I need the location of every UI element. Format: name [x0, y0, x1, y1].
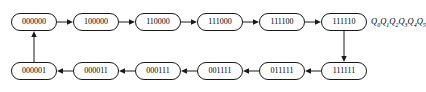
edge-110000-to-111000: [181, 19, 197, 24]
state-node-label: 100000: [84, 17, 108, 26]
edge-000001-to-000000: [31, 31, 36, 62]
state-node-label: 000001: [22, 66, 46, 75]
state-node-label: 011111: [271, 66, 294, 75]
state-node-001111[interactable]: 001111: [198, 63, 243, 80]
bit-order-q5: Q5: [417, 16, 426, 26]
state-node-label: 111110: [333, 17, 356, 26]
edge-000111-to-000011: [119, 68, 135, 73]
state-node-111111[interactable]: 111111: [322, 63, 367, 80]
state-node-110000[interactable]: 110000: [136, 14, 181, 31]
state-node-000111[interactable]: 000111: [136, 63, 181, 80]
state-node-111100[interactable]: 111100: [260, 14, 305, 31]
state-node-label: 000111: [146, 66, 169, 75]
state-node-label: 000000: [22, 17, 46, 26]
state-node-label: 001111: [208, 66, 231, 75]
bit-order-q0: Q0: [371, 16, 380, 26]
edge-100000-to-110000: [119, 19, 135, 24]
state-node-000000[interactable]: 000000: [12, 14, 57, 31]
state-node-100000[interactable]: 100000: [74, 14, 119, 31]
state-node-label: 000011: [84, 66, 108, 75]
state-node-111000[interactable]: 111000: [198, 14, 243, 31]
bit-order-label: Q0Q1Q2Q3Q4Q5: [371, 17, 426, 26]
state-node-label: 111100: [270, 17, 293, 26]
bit-order-q4: Q4: [408, 16, 417, 26]
state-node-011111[interactable]: 011111: [260, 63, 305, 80]
state-node-label: 111000: [208, 17, 231, 26]
edge-111111-to-011111: [305, 68, 321, 73]
bit-order-q3: Q3: [398, 16, 407, 26]
state-node-000011[interactable]: 000011: [74, 63, 119, 80]
state-node-label: 110000: [146, 17, 170, 26]
bit-order-q1: Q1: [380, 16, 389, 26]
state-node-111110[interactable]: 111110: [322, 14, 367, 31]
edge-111100-to-111110: [305, 19, 321, 24]
state-node-000001[interactable]: 000001: [12, 63, 57, 80]
edge-001111-to-000111: [181, 68, 197, 73]
edge-011111-to-001111: [243, 68, 259, 73]
edge-000000-to-100000: [57, 19, 73, 24]
bit-order-sub-5: 5: [423, 22, 426, 28]
edge-111000-to-111100: [243, 19, 259, 24]
edge-000011-to-000001: [57, 68, 73, 73]
state-node-label: 111111: [333, 66, 356, 75]
edge-111110-to-111111: [341, 31, 346, 62]
